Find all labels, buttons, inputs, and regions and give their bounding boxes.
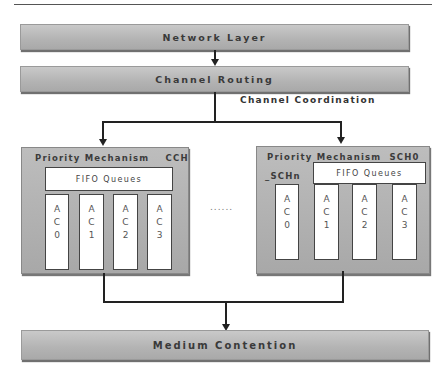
sch-priority-mechanism-box: Priority Mechanism SCH0 _SCHn FIFO Queue… [256, 146, 430, 274]
ac-letter-c: C [401, 206, 407, 219]
cch-channel-label: CCH [166, 153, 189, 163]
coordination-trunk-line [214, 92, 216, 122]
ac-number: 3 [402, 219, 408, 232]
medium-contention-box: Medium Contention [21, 330, 429, 360]
ac-letter-c: C [156, 216, 162, 229]
sch-channel-label: SCH0 [390, 152, 420, 162]
ac-number: 2 [123, 229, 129, 242]
ac-letter-c: C [54, 216, 60, 229]
ellipsis-more-channels: ...... [210, 202, 233, 212]
coordination-split-line [102, 121, 341, 123]
merge-trunk-line [225, 301, 227, 324]
network-layer-box: Network Layer [20, 24, 409, 50]
sch-title-text: Priority Mechanism [267, 152, 381, 162]
channel-routing-label: Channel Routing [155, 74, 274, 85]
sch-ac1-queue: A C 1 [314, 184, 339, 260]
ac-letter-a: A [361, 193, 367, 206]
ac-number: 0 [284, 219, 290, 232]
sch-ac2-queue: A C 2 [352, 184, 377, 260]
sch-title: Priority Mechanism SCH0 [267, 152, 420, 162]
ac-letter-c: C [122, 216, 128, 229]
sch-ac3-queue: A C 3 [392, 184, 417, 260]
ac-letter-a: A [54, 203, 60, 216]
cch-ac3-queue: A C 3 [147, 194, 172, 270]
merge-horizontal-line [103, 301, 344, 303]
cch-title-text: Priority Mechanism [35, 153, 149, 163]
split-right-arrowhead [337, 137, 345, 144]
split-left-arrowhead [99, 139, 107, 146]
ac-letter-c: C [88, 216, 94, 229]
ac-number: 1 [324, 219, 330, 232]
sch-fifo-queues: FIFO Queues [313, 162, 426, 184]
ac-letter-a: A [122, 203, 128, 216]
cch-fifo-label: FIFO Queues [76, 175, 142, 184]
merge-left-line [103, 273, 105, 302]
cch-priority-mechanism-box: Priority Mechanism CCH FIFO Queues A C 0… [21, 147, 189, 274]
ac-letter-a: A [323, 193, 329, 206]
network-layer-label: Network Layer [162, 32, 266, 43]
ac-number: 3 [157, 229, 163, 242]
sch-ac0-queue: A C 0 [275, 184, 299, 260]
medium-contention-label: Medium Contention [153, 340, 298, 351]
ac-letter-a: A [401, 193, 407, 206]
sch-fifo-label: FIFO Queues [336, 169, 402, 178]
ac-letter-c: C [323, 206, 329, 219]
ac-number: 2 [362, 219, 368, 232]
ac-letter-a: A [156, 203, 162, 216]
ac-letter-a: A [284, 193, 290, 206]
split-left-line [102, 121, 104, 140]
sch-channel-range-label: _SCHn [265, 171, 301, 181]
ac-letter-c: C [284, 206, 290, 219]
cch-fifo-queues: FIFO Queues [45, 167, 173, 191]
channel-routing-box: Channel Routing [20, 66, 409, 92]
cch-title: Priority Mechanism CCH [35, 153, 189, 163]
ac-letter-a: A [88, 203, 94, 216]
ac-letter-c: C [361, 206, 367, 219]
ac-number: 1 [89, 229, 95, 242]
cch-ac2-queue: A C 2 [113, 194, 138, 270]
cch-ac1-queue: A C 1 [79, 194, 104, 270]
split-right-line [340, 121, 342, 138]
channel-coordination-label: Channel Coordination [240, 95, 376, 105]
ac-number: 0 [54, 229, 60, 242]
arrow-network-to-routing-head [211, 59, 219, 66]
cch-ac0-queue: A C 0 [45, 194, 69, 270]
page-top-rule [14, 4, 432, 5]
merge-right-line [342, 271, 344, 302]
